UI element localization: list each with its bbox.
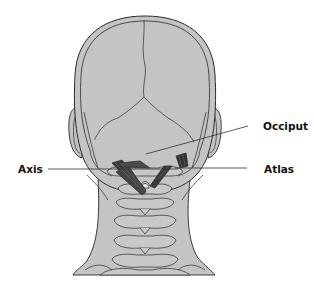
occiput-label: Occiput: [263, 120, 308, 132]
head-neck-illustration: [0, 0, 314, 295]
atlas-label: Atlas: [264, 163, 294, 175]
axis-label: Axis: [18, 163, 43, 175]
head-outline: [74, 16, 215, 190]
